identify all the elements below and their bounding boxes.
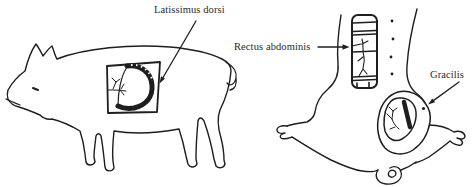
body-bottom-right [401, 162, 416, 170]
latissimus-dorsi-inset [107, 62, 160, 113]
tail-curl [376, 167, 401, 185]
rectus-abdominis-arrow [318, 44, 350, 49]
gracilis-label: Gracilis [430, 69, 464, 81]
pointer-dot [422, 107, 425, 110]
left-foreleg-flank [287, 15, 341, 126]
rectus-abdominis-muscle [352, 15, 377, 88]
arrowhead [343, 44, 350, 49]
diagram-canvas [0, 0, 476, 187]
body-bottom-left [292, 137, 378, 172]
latissimus-dorsi-label: Latissimus dorsi [154, 4, 225, 16]
nipple-dots [390, 20, 395, 76]
rectus-abdominis-label: Rectus abdominis [234, 41, 311, 53]
gracilis-region [378, 91, 431, 154]
pig-muscle-anatomy-diagram: Latissimus dorsi Rectus abdominis Gracil… [0, 0, 476, 187]
right-foreleg [407, 9, 425, 103]
left-hind-hoof [277, 126, 292, 139]
